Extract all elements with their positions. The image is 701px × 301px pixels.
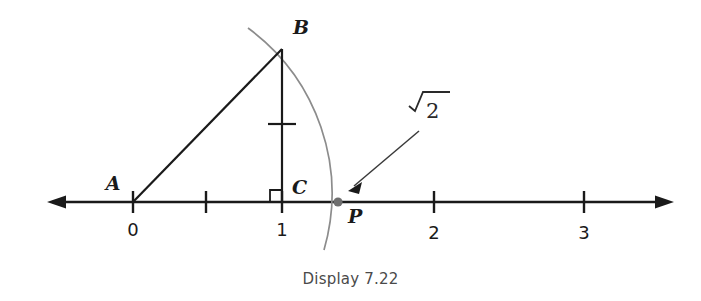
geometry-diagram: 0 1 2 3 A B C P 2 <box>0 0 701 301</box>
point-label-c: C <box>292 176 307 198</box>
point-label-p: P <box>347 205 363 227</box>
tick-label-0: 0 <box>127 219 138 240</box>
annotation-arrowhead-icon <box>348 182 362 194</box>
segment-ab <box>133 49 282 202</box>
point-label-b: B <box>292 16 309 38</box>
point-p-dot <box>333 197 342 206</box>
figure-caption: Display 7.22 <box>0 270 701 288</box>
annotation-leader-line <box>354 131 419 186</box>
tick-label-3: 3 <box>578 222 589 243</box>
sqrt2-radicand: 2 <box>426 99 439 123</box>
triangle-abc <box>133 49 296 202</box>
right-arrowhead-icon <box>655 196 674 209</box>
sqrt2-annotation: 2 <box>348 92 450 194</box>
tick-label-1: 1 <box>276 219 287 240</box>
right-angle-marker-icon <box>270 190 282 202</box>
tick-label-2: 2 <box>428 222 439 243</box>
point-label-a: A <box>104 172 121 194</box>
construction-arc <box>248 28 332 250</box>
left-arrowhead-icon <box>47 196 66 209</box>
